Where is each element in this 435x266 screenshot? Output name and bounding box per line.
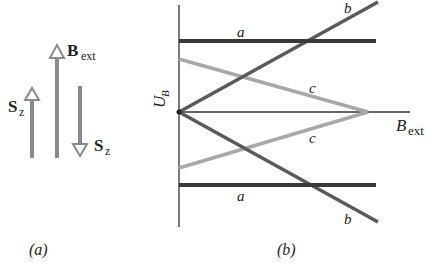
spin-down-arrow-icon: [73, 86, 87, 156]
spin-up-subscript: z: [19, 105, 24, 119]
b-ext-label: B: [67, 41, 78, 60]
label-b-upper: b: [344, 0, 352, 16]
y-axis-label-sub: B: [159, 90, 171, 97]
figure: B ext S z S z (a) a a: [0, 0, 435, 266]
panel-b: a a b b c c U B B ext (b): [150, 0, 424, 259]
origin-point: [177, 110, 182, 115]
line-b-lower: [179, 112, 378, 222]
b-ext-subscript: ext: [81, 49, 96, 63]
spin-up-arrow-icon: [25, 88, 39, 158]
label-a-upper: a: [237, 24, 245, 40]
panel-a: B ext S z S z (a): [8, 41, 110, 259]
label-b-lower: b: [344, 211, 352, 227]
x-axis-label-sub: ext: [408, 123, 424, 138]
panel-b-caption: (b): [277, 241, 296, 259]
spin-down-label: S: [94, 136, 103, 155]
panel-a-caption: (a): [29, 241, 48, 259]
spin-up-label: S: [8, 97, 17, 116]
spin-down-subscript: z: [105, 144, 110, 158]
label-a-lower: a: [237, 188, 245, 204]
line-c-lower: [179, 112, 368, 168]
y-axis-label: U B: [150, 90, 171, 108]
line-c-upper: [179, 59, 368, 112]
label-c-lower: c: [309, 130, 316, 146]
label-c-upper: c: [309, 80, 316, 96]
line-b-upper: [179, 2, 378, 112]
b-ext-arrow-icon: [50, 45, 64, 158]
x-axis-label: B: [396, 116, 407, 135]
